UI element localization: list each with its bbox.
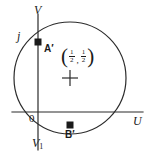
center-x-numerator: 1 — [69, 49, 75, 56]
center-y-fraction: 1 2 — [80, 49, 88, 65]
circle-center-plus-marker — [62, 70, 78, 86]
circle-center-coordinate-label: ( 1 2 , 1 2 ) — [61, 48, 94, 66]
diagram-canvas — [0, 0, 152, 158]
horizontal-axis-label: U — [133, 115, 142, 127]
coordinate-separator: , — [76, 56, 80, 65]
point-b-prime-marker — [67, 122, 74, 129]
center-y-numerator: 1 — [81, 49, 87, 56]
imaginary-unit-tick-label: j — [17, 30, 20, 42]
point-a-prime-marker — [35, 39, 42, 46]
center-x-denominator: 2 — [69, 56, 75, 64]
center-y-denominator: 2 — [81, 56, 87, 64]
close-paren: ) — [87, 48, 94, 66]
uv-plane-circle-diagram: V U V1 j 0 A′ B′ ( 1 2 , 1 2 ) — [0, 0, 152, 158]
point-a-prime-label: A′ — [44, 44, 54, 54]
center-x-fraction: 1 2 — [68, 49, 76, 65]
vertical-axis-bottom-label-subscript: 1 — [39, 142, 43, 151]
origin-label: 0 — [29, 113, 35, 124]
vertical-axis-top-label: V — [34, 4, 41, 16]
open-paren: ( — [61, 48, 68, 66]
vertical-axis-bottom-label: V1 — [32, 137, 43, 149]
point-b-prime-label: B′ — [65, 130, 75, 140]
